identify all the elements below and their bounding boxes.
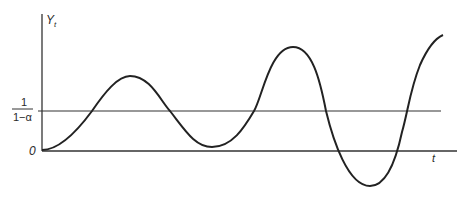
y-axis-label: Yt xyxy=(46,13,57,29)
fraction-denominator: 1−α xyxy=(13,111,33,123)
origin-label: 0 xyxy=(29,144,36,158)
x-axis-label: t xyxy=(432,152,436,164)
fraction-numerator: 1 xyxy=(21,96,27,108)
oscillation-diagram: Yt t 0 1 1−α xyxy=(0,0,467,197)
